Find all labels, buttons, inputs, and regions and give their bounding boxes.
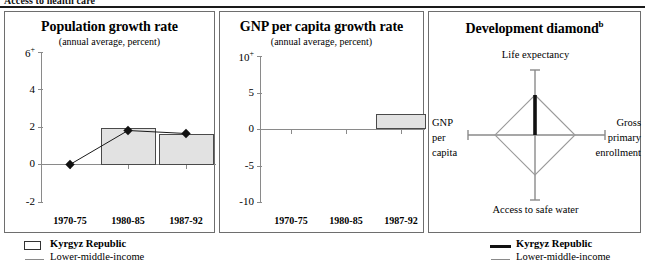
- chart-panel-gnp-growth: GNP per capita growth rate (annual avera…: [219, 11, 424, 233]
- diamond-label-left: GNP per capita: [432, 115, 474, 160]
- diamond-label-right-line3: enrollment: [591, 145, 641, 160]
- legend-item-lower-middle-income: Lower-middle-income: [490, 252, 645, 265]
- y-tick-5: [257, 93, 262, 94]
- lower-middle-income-line: [5, 12, 216, 234]
- diamond-label-top: Life expectancy: [429, 49, 642, 60]
- x-tick-1987-92: [401, 129, 402, 134]
- y-tick-m5: [257, 166, 262, 167]
- y-axis-plus-suffix: +: [249, 49, 254, 58]
- legend-swatch-thin-line-icon: [25, 259, 44, 260]
- diamond-label-left-line1: GNP: [432, 115, 474, 130]
- legend-swatch-thin-line-icon: [491, 259, 510, 260]
- diamond-label-right-line1: Gross: [591, 115, 641, 130]
- legend-label: Lower-middle-income: [516, 251, 610, 262]
- legend-label: Lower-middle-income: [50, 251, 144, 262]
- diamond-label-left-line2: per: [432, 130, 474, 145]
- chart-panel-population-growth: Population growth rate (annual average, …: [4, 11, 215, 233]
- y-tick-label-5: 5: [224, 86, 254, 98]
- plot-area-diamond: Life expectancy Access to safe water GNP…: [429, 12, 640, 232]
- y-tick-label-0: 0: [224, 122, 254, 134]
- y-tick-label-10-text: 10: [238, 51, 249, 63]
- x-axis-label-1987-92: 1987-92: [371, 215, 431, 226]
- legend-swatch-thick-line-icon: [490, 245, 511, 248]
- x-tick-1980-85: [346, 129, 347, 134]
- legend-swatch-box-icon: [24, 241, 41, 250]
- header-rule: [0, 6, 645, 8]
- figure-root: Access to health care Population growth …: [0, 0, 645, 265]
- y-tick-10: [257, 56, 262, 57]
- legend-left: Kyrgyz Republic Lower-middle-income: [24, 239, 214, 265]
- y-tick-m10: [257, 202, 262, 203]
- x-axis-label-1987-92: 1987-92: [156, 215, 216, 226]
- x-axis-label-1970-75: 1970-75: [40, 215, 100, 226]
- plot-area-gnp: 10+ 5 0 -5 -10 1970-75 1980-85 1987-92: [220, 12, 423, 232]
- diamond-label-left-line3: capita: [432, 145, 474, 160]
- y-tick-label-minus5: -5: [224, 159, 254, 171]
- x-axis-label-1970-75: 1970-75: [261, 215, 321, 226]
- x-axis-label-1980-85: 1980-85: [98, 215, 158, 226]
- legend-right: Kyrgyz Republic Lower-middle-income: [490, 239, 645, 265]
- legend-item-lower-middle-income: Lower-middle-income: [24, 252, 214, 265]
- legend-label: Kyrgyz Republic: [50, 238, 126, 249]
- y-tick-label-10: 10+: [224, 49, 254, 63]
- diamond-label-bottom: Access to safe water: [429, 204, 642, 215]
- diamond-label-right-line2: primary: [591, 130, 641, 145]
- x-tick-1970-75: [291, 129, 292, 134]
- y-tick-label-minus10: -10: [222, 195, 254, 207]
- y-tick-0: [257, 129, 262, 130]
- plot-area-population: 6+ 4 2 0 -2 1970-75 1980-85 1987-92: [5, 12, 214, 232]
- legend-label: Kyrgyz Republic: [516, 238, 592, 249]
- chart-panel-development-diamond: Development diamondb Life expectancy Acc…: [428, 11, 641, 233]
- x-axis-label-1980-85: 1980-85: [316, 215, 376, 226]
- bar-1987-92: [376, 114, 426, 129]
- diamond-label-right: Gross primary enrollment: [591, 115, 641, 160]
